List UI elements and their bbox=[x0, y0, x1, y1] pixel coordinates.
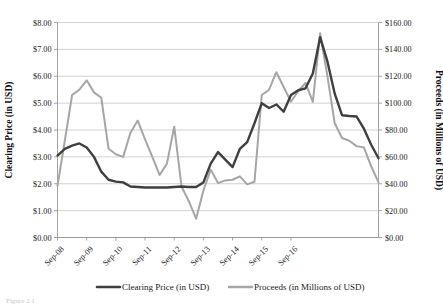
left-tick-label: $0.00 bbox=[33, 234, 51, 243]
left-tick-label: $7.00 bbox=[33, 45, 51, 54]
right-tick-label: $40.00 bbox=[385, 180, 408, 189]
left-axis-tick-labels: $0.00$1.00$2.00$3.00$4.00$5.00$6.00$7.00… bbox=[33, 19, 51, 243]
right-tick-label: $100.00 bbox=[385, 99, 412, 108]
left-tick-label: $8.00 bbox=[33, 19, 51, 28]
right-axis-title: Proceeds (in Millions of USD) bbox=[433, 70, 443, 190]
left-tick-label: $4.00 bbox=[33, 126, 51, 135]
right-tick-label: $140.00 bbox=[385, 45, 412, 54]
left-tick-label: $6.00 bbox=[33, 72, 51, 81]
dual-axis-line-chart: $0.00$1.00$2.00$3.00$4.00$5.00$6.00$7.00… bbox=[0, 0, 443, 308]
left-axis-title: Clearing Price (in USD) bbox=[4, 82, 15, 179]
left-tick-label: $1.00 bbox=[33, 207, 51, 216]
right-tick-label: $0.00 bbox=[385, 234, 403, 243]
right-tick-label: $80.00 bbox=[385, 126, 408, 135]
legend-label-proceeds: Proceeds (in Millions of USD) bbox=[254, 282, 365, 292]
left-tick-label: $5.00 bbox=[33, 99, 51, 108]
figure-caption: Figure 2.1 bbox=[6, 297, 35, 305]
left-tick-label: $3.00 bbox=[33, 153, 51, 162]
right-tick-label: $120.00 bbox=[385, 72, 412, 81]
left-tick-label: $2.00 bbox=[33, 180, 51, 189]
right-tick-label: $60.00 bbox=[385, 153, 408, 162]
legend-label-clearing-price: Clearing Price (in USD) bbox=[122, 282, 209, 292]
right-tick-label: $160.00 bbox=[385, 19, 412, 28]
right-tick-label: $20.00 bbox=[385, 207, 408, 216]
